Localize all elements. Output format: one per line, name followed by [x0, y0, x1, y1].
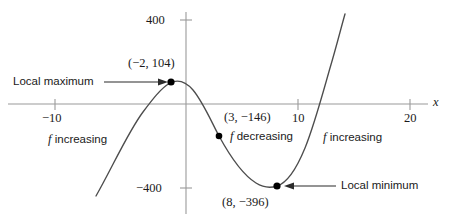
- annotation-f-increasing-right: f increasing: [323, 131, 382, 144]
- italic-f-right: f: [323, 130, 326, 144]
- point-inflection: [216, 133, 223, 140]
- x-tick-label-20: 20: [404, 112, 417, 125]
- graph-figure: 400 −400 −10 10 20 x (−2, 104) (3, −146)…: [0, 0, 450, 219]
- point-local-maximum: [167, 78, 174, 85]
- local-maximum-callout-label: Local maximum: [13, 76, 94, 88]
- annotation-text-left: increasing: [55, 133, 107, 145]
- point-label-inflection: (3, −146): [224, 111, 271, 124]
- local-minimum-callout-label: Local minimum: [341, 180, 418, 192]
- function-curve: [96, 14, 345, 196]
- annotation-f-decreasing-middle: f decreasing: [230, 130, 293, 143]
- point-local-minimum: [273, 182, 280, 189]
- local-minimum-arrow-head: [284, 182, 294, 189]
- annotation-text-middle: decreasing: [237, 130, 293, 142]
- y-tick-label-minus400: −400: [136, 182, 162, 195]
- annotation-f-increasing-left: f increasing: [48, 133, 107, 146]
- italic-f-middle: f: [230, 129, 233, 143]
- point-label-local-minimum: (8, −396): [222, 196, 269, 209]
- y-tick-label-400: 400: [146, 14, 165, 27]
- point-label-local-maximum: (−2, 104): [128, 57, 175, 70]
- annotation-text-right: increasing: [330, 131, 382, 143]
- x-tick-label-10: 10: [292, 112, 305, 125]
- x-axis-label: x: [433, 96, 439, 109]
- x-tick-label-minus10: −10: [42, 112, 62, 125]
- italic-f-left: f: [48, 132, 51, 146]
